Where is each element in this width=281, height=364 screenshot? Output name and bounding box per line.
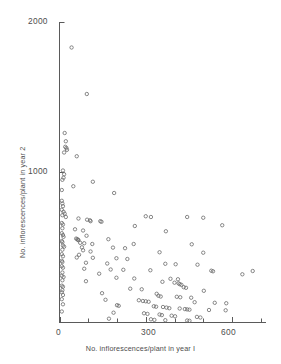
- y-axis-title: No. inflorescences/plant in year 2: [18, 147, 27, 258]
- data-point: [84, 280, 87, 283]
- data-point: [144, 215, 147, 218]
- data-point: [126, 257, 129, 260]
- xtick-label-600: 600: [221, 327, 236, 337]
- ytick-label-2000: 2000: [28, 16, 48, 26]
- data-point: [106, 262, 109, 265]
- data-point: [202, 216, 205, 219]
- data-point: [176, 278, 179, 281]
- x-axis-title: No. inflorescences/plant in year I: [0, 344, 281, 353]
- data-point: [62, 151, 65, 154]
- data-point: [61, 271, 64, 274]
- data-point: [77, 217, 80, 220]
- data-point: [64, 140, 67, 143]
- data-point: [225, 302, 228, 305]
- data-point: [60, 298, 63, 301]
- data-point: [170, 314, 173, 317]
- data-point: [84, 261, 87, 264]
- data-point: [169, 277, 172, 280]
- data-point: [251, 269, 254, 272]
- data-point: [132, 242, 135, 245]
- data-point: [111, 246, 114, 249]
- data-point-group: [60, 46, 254, 323]
- data-point: [174, 263, 177, 266]
- data-point: [142, 312, 145, 315]
- data-point: [184, 286, 187, 289]
- xtick-label-300: 300: [141, 327, 156, 337]
- data-point: [75, 155, 78, 158]
- data-point: [89, 250, 92, 253]
- data-point: [173, 315, 176, 318]
- data-point: [164, 230, 167, 233]
- data-point: [97, 272, 100, 275]
- data-point: [112, 191, 115, 194]
- ytick-label-1000: 1000: [28, 166, 48, 176]
- data-point: [179, 296, 182, 299]
- data-point: [60, 310, 63, 313]
- data-point: [189, 296, 192, 299]
- data-point: [185, 215, 188, 218]
- data-point: [178, 307, 181, 310]
- data-point: [123, 247, 126, 250]
- data-point: [140, 288, 143, 291]
- data-point: [199, 316, 202, 319]
- data-point: [164, 319, 167, 322]
- data-point: [100, 220, 103, 223]
- data-point: [122, 268, 125, 271]
- data-point: [60, 188, 63, 191]
- data-point: [154, 305, 157, 308]
- data-point: [202, 251, 205, 254]
- data-point: [153, 318, 156, 321]
- data-point: [100, 292, 103, 295]
- data-point: [64, 215, 67, 218]
- scatter-plot-figure: 2000 1000 0 300 600 No. inflorescences/p…: [0, 0, 281, 364]
- data-point: [107, 238, 110, 241]
- tick-marks: [60, 23, 262, 323]
- data-point: [190, 243, 193, 246]
- data-point: [224, 309, 227, 312]
- data-point: [61, 279, 64, 282]
- data-point: [133, 277, 136, 280]
- data-point: [221, 224, 224, 227]
- data-point: [91, 242, 94, 245]
- data-point: [158, 251, 161, 254]
- data-point: [129, 287, 132, 290]
- data-point: [173, 281, 176, 284]
- data-point: [61, 303, 64, 306]
- data-point: [72, 185, 75, 188]
- data-point: [62, 173, 65, 176]
- data-point: [115, 276, 118, 279]
- data-point: [63, 131, 66, 134]
- data-point: [61, 248, 64, 251]
- data-point: [160, 313, 163, 316]
- data-point: [241, 273, 244, 276]
- data-point: [202, 289, 205, 292]
- data-point: [73, 228, 76, 231]
- data-point: [161, 305, 164, 308]
- data-point: [133, 224, 136, 227]
- data-point: [85, 234, 88, 237]
- data-point: [188, 308, 191, 311]
- data-point: [195, 315, 198, 318]
- data-point: [182, 286, 185, 289]
- data-point: [137, 299, 140, 302]
- data-point: [164, 262, 167, 265]
- data-point: [104, 298, 107, 301]
- data-point: [175, 295, 178, 298]
- data-point: [149, 318, 152, 321]
- data-point: [115, 257, 118, 260]
- data-point: [91, 256, 94, 259]
- data-point: [107, 317, 110, 320]
- data-point: [213, 301, 216, 304]
- data-point: [81, 229, 84, 232]
- y-axis-title-wrap: No. inflorescences/plant in year 2: [2, 100, 22, 260]
- data-point: [83, 242, 86, 245]
- data-point: [196, 263, 199, 266]
- data-point: [207, 308, 210, 311]
- data-point: [112, 311, 115, 314]
- data-point: [85, 92, 88, 95]
- data-point: [146, 312, 149, 315]
- data-point: [75, 256, 78, 259]
- data-point: [188, 319, 191, 322]
- data-point: [61, 227, 64, 230]
- data-point: [70, 46, 73, 49]
